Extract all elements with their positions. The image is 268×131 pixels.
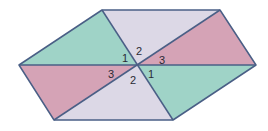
angle-label-3-upper: 3 (159, 54, 165, 66)
angle-label-2-lower: 2 (130, 74, 136, 86)
angle-label-3-lower: 3 (108, 68, 114, 80)
angle-label-2-upper: 2 (136, 45, 142, 57)
angle-label-1-upper: 1 (122, 52, 128, 64)
hexagon-diagram: 1 2 3 3 2 1 (0, 0, 268, 131)
angle-label-1-lower: 1 (148, 68, 154, 80)
